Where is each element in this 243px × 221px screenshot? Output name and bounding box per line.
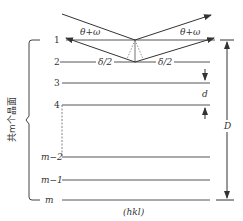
thickness-dimension [216, 40, 234, 200]
lattice-planes [60, 40, 215, 200]
group-brace [26, 40, 40, 200]
plane-label-2: 2 [54, 58, 60, 67]
diagram-graphics [0, 0, 243, 221]
spacing-label-d: d [202, 90, 208, 99]
thickness-label-D: D [224, 121, 231, 132]
plane-label-1: 1 [54, 36, 60, 45]
plane-label-m-minus-2: m−2 [41, 153, 63, 162]
path-difference-construction [127, 40, 143, 62]
x-ray-paths [62, 14, 214, 62]
plane-label-m: m [45, 196, 54, 205]
plane-label-3: 3 [54, 79, 60, 88]
angle-label-right: θ+ω [180, 28, 200, 37]
bragg-diffraction-diagram: θ+ω θ+ω δ/2 δ/2 1 2 3 4 m−2 m−1 m d D (h… [0, 0, 243, 221]
diffracted-ray-right [135, 38, 214, 62]
plane-label-4: 4 [54, 101, 60, 110]
group-label: 共m个晶面 [8, 97, 17, 142]
path-label-left: δ/2 [96, 58, 114, 67]
path-label-right: δ/2 [156, 58, 174, 67]
miller-index-label: (hkl) [123, 208, 144, 217]
angle-label-left: θ+ω [80, 28, 100, 37]
plane-label-m-minus-1: m−1 [41, 176, 63, 185]
